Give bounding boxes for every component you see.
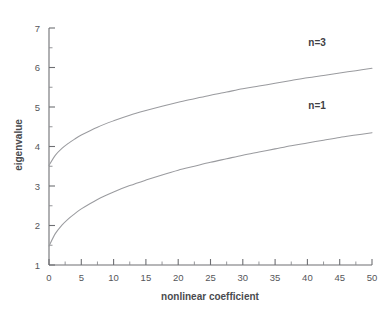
y-tick-label: 5 — [35, 102, 40, 113]
x-tick-label: 30 — [238, 272, 249, 283]
x-tick-label: 50 — [367, 272, 378, 283]
chart-figure: 051015202530354045501234567 n=3n=1 nonli… — [0, 0, 390, 309]
plot-background — [0, 0, 390, 309]
y-tick-label: 3 — [35, 181, 40, 192]
series-label-n3: n=3 — [308, 37, 326, 48]
x-tick-label: 15 — [141, 272, 152, 283]
y-tick-label: 4 — [35, 141, 40, 152]
y-axis-title: eigenvalue — [13, 119, 24, 171]
y-tick-label: 6 — [35, 62, 40, 73]
x-tick-label: 20 — [173, 272, 184, 283]
y-tick-label: 2 — [35, 220, 40, 231]
x-tick-label: 45 — [334, 272, 345, 283]
y-tick-label: 7 — [35, 23, 40, 34]
x-tick-label: 35 — [270, 272, 281, 283]
x-tick-label: 25 — [205, 272, 216, 283]
x-tick-label: 5 — [79, 272, 84, 283]
x-tick-label: 40 — [302, 272, 313, 283]
y-tick-label: 1 — [35, 260, 40, 271]
series-label-n1: n=1 — [308, 100, 326, 111]
x-tick-label: 10 — [108, 272, 119, 283]
x-axis-title: nonlinear coefficient — [161, 291, 259, 302]
x-tick-label: 0 — [46, 272, 51, 283]
eigenvalue-vs-nonlinear-coefficient-plot: 051015202530354045501234567 n=3n=1 nonli… — [0, 0, 390, 309]
